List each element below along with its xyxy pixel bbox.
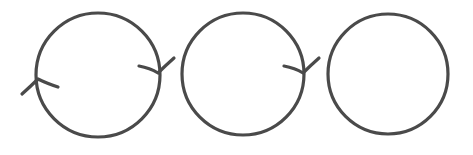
cycle-circle-two-arrows [22, 13, 174, 137]
plain-circle [328, 14, 448, 134]
arrowhead-left-icon [22, 79, 58, 94]
circle-one-arrow [182, 13, 319, 135]
arrowhead-right-icon [139, 58, 174, 73]
circle-3 [328, 14, 448, 134]
circle-1 [36, 13, 160, 137]
diagram-canvas [0, 0, 473, 155]
circle-2 [182, 13, 304, 135]
